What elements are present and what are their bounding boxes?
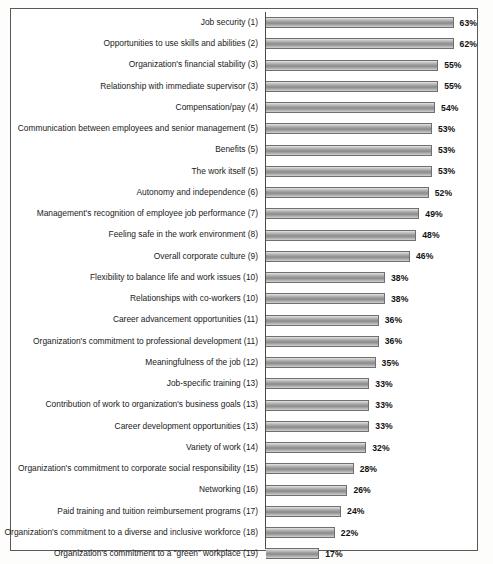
bar-value-label: 38%	[391, 294, 408, 304]
bar-value-label: 38%	[391, 273, 408, 283]
category-label-text: Organization's financial stability (3)	[129, 60, 258, 70]
bar-row: Meaningfulness of the job (12)35%	[11, 352, 477, 373]
bar-track: 36%	[266, 310, 477, 331]
bar-row: Organization's commitment to corporate s…	[11, 458, 477, 479]
category-label-text: Benefits (5)	[215, 145, 258, 155]
bar	[266, 123, 432, 134]
bar	[266, 187, 429, 198]
bar-row: Overall corporate culture (9)46%	[11, 246, 477, 267]
category-label-text: Career development opportunities (13)	[115, 422, 258, 432]
bar-row: Autonomy and independence (6)52%	[11, 182, 477, 203]
category-label: Relationship with immediate supervisor (…	[11, 76, 263, 97]
bar-row: Career development opportunities (13)33%	[11, 416, 477, 437]
bar-track: 54%	[266, 97, 477, 118]
category-label: Organization's commitment to corporate s…	[11, 458, 263, 479]
bar	[266, 527, 335, 538]
bar	[266, 17, 454, 28]
category-label-text: Management's recognition of employee job…	[37, 209, 258, 219]
bar-track: 55%	[266, 76, 477, 97]
bar-row: Organization's commitment to professiona…	[11, 331, 477, 352]
bar-row: Flexibility to balance life and work iss…	[11, 267, 477, 288]
bar-value-label: 32%	[372, 443, 389, 453]
bar-track: 38%	[266, 288, 477, 309]
category-label: Organization's commitment to a diverse a…	[11, 522, 263, 543]
category-label-text: Organization's commitment to a “green” w…	[54, 549, 258, 559]
bar-track: 63%	[266, 12, 477, 33]
bar-track: 33%	[266, 373, 477, 394]
category-label: Feeling safe in the work environment (8)	[11, 225, 263, 246]
category-label: Autonomy and independence (6)	[11, 182, 263, 203]
bar	[266, 145, 432, 156]
bar	[266, 272, 385, 283]
category-label: Compensation/pay (4)	[11, 97, 263, 118]
bar-value-label: 53%	[438, 145, 455, 155]
bar-value-label: 53%	[438, 166, 455, 176]
bar-row: Contribution of work to organization's b…	[11, 395, 477, 416]
bar-row: Job-specific training (13)33%	[11, 373, 477, 394]
bar-track: 48%	[266, 225, 477, 246]
category-label-text: Networking (16)	[199, 485, 258, 495]
category-label-text: Contribution of work to organization's b…	[46, 400, 258, 410]
bar-row: Job security (1)63%	[11, 12, 477, 33]
bar-value-label: 17%	[325, 549, 342, 559]
bar-value-label: 63%	[460, 18, 477, 28]
bar-track: 49%	[266, 203, 477, 224]
bar	[266, 421, 369, 432]
bar-track: 38%	[266, 267, 477, 288]
bar	[266, 38, 454, 49]
bar-track: 52%	[266, 182, 477, 203]
bar-track: 28%	[266, 458, 477, 479]
category-label-text: Feeling safe in the work environment (8)	[109, 230, 258, 240]
bar-row: Benefits (5)53%	[11, 140, 477, 161]
category-label: Overall corporate culture (9)	[11, 246, 263, 267]
category-label-text: Communication between employees and seni…	[18, 124, 258, 134]
bar	[266, 251, 410, 262]
bar-track: 53%	[266, 140, 477, 161]
bar-row: Management's recognition of employee job…	[11, 203, 477, 224]
bar-value-label: 48%	[422, 230, 439, 240]
bar-row: Organization's commitment to a “green” w…	[11, 543, 477, 564]
bar	[266, 315, 379, 326]
category-label: Relationships with co-workers (10)	[11, 288, 263, 309]
category-label: Organization's commitment to a “green” w…	[11, 543, 263, 564]
category-label-text: Organization's commitment to a diverse a…	[5, 528, 258, 538]
category-label-text: Relationship with immediate supervisor (…	[100, 82, 258, 92]
bar	[266, 442, 366, 453]
category-label-text: Opportunities to use skills and abilitie…	[103, 39, 258, 49]
category-label-text: Organization's commitment to professiona…	[33, 337, 258, 347]
bar-value-label: 46%	[416, 251, 433, 261]
bar-chart-figure: Job security (1)63%Opportunities to use …	[0, 0, 493, 564]
bar-track: 33%	[266, 416, 477, 437]
bar-track: 32%	[266, 437, 477, 458]
bar-value-label: 33%	[375, 400, 392, 410]
bar-row: The work itself (5)53%	[11, 161, 477, 182]
category-label: Benefits (5)	[11, 140, 263, 161]
bar-value-label: 55%	[444, 81, 461, 91]
bar-value-label: 49%	[425, 209, 442, 219]
category-label: Job security (1)	[11, 12, 263, 33]
bar-value-label: 36%	[385, 315, 402, 325]
bar	[266, 485, 347, 496]
bar	[266, 400, 369, 411]
category-label-text: Compensation/pay (4)	[176, 103, 258, 113]
bar-track: 62%	[266, 33, 477, 54]
category-label: Job-specific training (13)	[11, 373, 263, 394]
bar-track: 53%	[266, 161, 477, 182]
bar-row: Communication between employees and seni…	[11, 118, 477, 139]
bar-row: Relationships with co-workers (10)38%	[11, 288, 477, 309]
bar	[266, 208, 419, 219]
bar-track: 17%	[266, 543, 477, 564]
bar-value-label: 28%	[360, 464, 377, 474]
category-label: Opportunities to use skills and abilitie…	[11, 33, 263, 54]
bar-track: 24%	[266, 501, 477, 522]
chart-frame-border: Job security (1)63%Opportunities to use …	[10, 8, 478, 551]
category-label-text: Relationships with co-workers (10)	[130, 294, 258, 304]
category-label-text: Job security (1)	[201, 18, 258, 28]
bar-track: 53%	[266, 118, 477, 139]
bar-row: Variety of work (14)32%	[11, 437, 477, 458]
bar	[266, 102, 435, 113]
bar	[266, 336, 379, 347]
bar-track: 26%	[266, 480, 477, 501]
bar	[266, 548, 319, 559]
category-label-text: Job-specific training (13)	[167, 379, 258, 389]
